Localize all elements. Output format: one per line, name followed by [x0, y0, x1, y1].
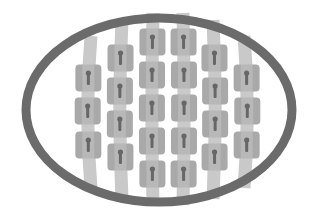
block-c1-r3	[75, 131, 101, 160]
block-c2-r2	[107, 77, 133, 106]
block-c1-r1	[75, 64, 101, 93]
diagram-canvas	[0, 0, 318, 219]
block-c4-r5	[171, 160, 197, 189]
strap-layer	[88, 13, 248, 205]
block-c3-r2	[139, 61, 165, 90]
block-c5-r1	[201, 44, 227, 73]
block-c2-r1	[108, 44, 134, 73]
block-c6-r2	[234, 97, 260, 126]
block-c5-r2	[202, 77, 228, 106]
block-c5-r3	[202, 110, 228, 139]
block-c4-r2	[171, 61, 197, 90]
block-c6-r1	[234, 64, 260, 93]
block-c4-r3	[171, 94, 197, 123]
block-c3-r4	[139, 127, 165, 156]
block-layer	[75, 28, 261, 189]
block-c3-r5	[139, 160, 165, 189]
block-c2-r4	[107, 143, 133, 172]
block-c3-r3	[139, 94, 165, 123]
block-c5-r4	[202, 143, 228, 172]
block-c1-r2	[75, 97, 101, 126]
block-c2-r3	[107, 110, 133, 139]
block-c4-r1	[171, 28, 197, 57]
ellipse-strands-illustration	[0, 0, 318, 219]
block-c3-r1	[139, 28, 165, 57]
block-c6-r3	[234, 131, 260, 160]
block-c4-r4	[171, 127, 197, 156]
